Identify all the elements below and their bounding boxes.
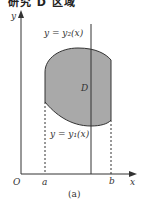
lower-curve-label: y = y₁(x) [50, 130, 89, 139]
figure-caption: (a) [68, 190, 80, 199]
region-label: D [81, 84, 88, 93]
upper-curve-label: y = y₂(x) [44, 29, 83, 38]
x-tick-a: a [42, 178, 47, 187]
region-d [45, 48, 111, 126]
origin-label: O [13, 178, 20, 187]
x-tick-b: b [109, 177, 115, 186]
x-axis-label: x [130, 178, 135, 187]
y-axis-arrow-icon [18, 10, 24, 18]
diagram: 研究 D 区域 y y = y₂(x) D y = y₁(x) O a b x … [0, 0, 147, 214]
y-axis-label: y [11, 12, 16, 21]
